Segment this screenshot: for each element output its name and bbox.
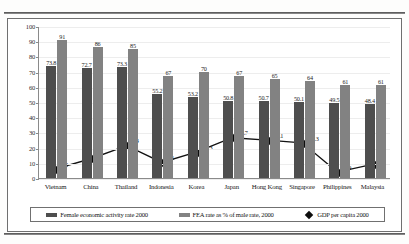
gridline	[39, 179, 390, 180]
y-tick-label: 30	[11, 130, 35, 136]
bar-value-label: 67	[236, 69, 242, 76]
bar-female-activity-rate: 72.7	[82, 68, 92, 179]
y-tick-label: 80	[11, 54, 35, 60]
x-axis-labels: VietnamChinaThailandIndonesiaKoreaJapanH…	[38, 182, 390, 195]
legend-label-0: Female economic activity rate 2000	[60, 211, 148, 218]
bar-group: 49.561	[322, 27, 357, 178]
bar-value-label: 61	[342, 78, 348, 85]
plot-area: 6.2196.43.117.326.725.123.33.99 01020304…	[38, 27, 390, 179]
bar-value-label: 70	[201, 65, 207, 72]
plot-inner: 6.2196.43.117.326.725.123.33.99 01020304…	[39, 27, 390, 178]
y-tick-label: 10	[11, 161, 35, 167]
legend-item-gdp-per-capita: GDP per capita 2000	[304, 211, 368, 218]
bar-female-activity-rate: 50.7	[259, 101, 269, 178]
bar-female-activity-rate: 49.5	[329, 103, 339, 178]
y-tick-label: 70	[11, 70, 35, 76]
bar-fea-percent-male: 85	[128, 49, 138, 178]
scanned-page: 6.2196.43.117.326.725.123.33.99 01020304…	[0, 0, 409, 244]
bar-fea-percent-male: 70	[199, 72, 209, 178]
legend-item-fea-percent-male: FEA rate as % of male rate, 2000	[179, 211, 274, 218]
legend-label-2: GDP per capita 2000	[317, 211, 368, 218]
bar-light-swatch-icon	[179, 213, 190, 217]
y-tick-label: 40	[11, 115, 35, 121]
bar-value-label: 48.4	[365, 97, 375, 104]
y-tick-label: 50	[11, 100, 35, 106]
bar-value-label: 86	[95, 40, 101, 47]
bar-female-activity-rate: 53.2	[188, 97, 198, 178]
x-axis-label-thailand: Thailand	[108, 182, 143, 195]
x-axis-label-vietnam: Vietnam	[38, 182, 73, 195]
bar-fea-percent-male: 86	[93, 47, 103, 178]
bar-value-label: 64	[307, 74, 313, 81]
legend-item-female-activity-rate: Female economic activity rate 2000	[46, 211, 148, 218]
y-tick-mark	[36, 179, 39, 180]
bar-value-label: 73.8	[46, 59, 56, 66]
legend-label-1: FEA rate as % of male rate, 2000	[193, 211, 274, 218]
bar-group: 55.267	[145, 27, 180, 178]
x-axis-label-korea: Korea	[179, 182, 214, 195]
bar-female-activity-rate: 48.4	[365, 104, 375, 178]
bar-value-label: 65	[272, 72, 278, 79]
bar-fea-percent-male: 65	[270, 79, 280, 178]
bar-female-activity-rate: 55.2	[152, 94, 162, 178]
bar-fea-percent-male: 61	[376, 85, 386, 178]
x-axis-label-singapore: Singapore	[284, 182, 319, 195]
bar-value-label: 91	[59, 33, 65, 40]
bar-group: 48.461	[358, 27, 393, 178]
x-axis-label-hong-kong: Hong Kong	[249, 182, 284, 195]
bar-female-activity-rate: 73.8	[46, 66, 56, 178]
chart-frame: 6.2196.43.117.326.725.123.33.99 01020304…	[7, 18, 402, 232]
bar-group: 73.385	[110, 27, 145, 178]
bar-fea-percent-male: 64	[305, 81, 315, 178]
x-axis-label-malaysia: Malaysia	[355, 182, 390, 195]
y-tick-label: 90	[11, 39, 35, 45]
y-tick-label: 100	[11, 24, 35, 30]
bar-group: 50.867	[216, 27, 251, 178]
bar-group: 53.270	[181, 27, 216, 178]
bar-value-label: 53.2	[188, 90, 198, 97]
bar-female-activity-rate: 50.8	[223, 101, 233, 178]
bar-group: 50.765	[251, 27, 286, 178]
bar-fea-percent-male: 61	[340, 85, 350, 178]
y-tick-label: 60	[11, 85, 35, 91]
bar-value-label: 50.1	[294, 95, 304, 102]
bar-value-label: 73.3	[117, 60, 127, 67]
bar-female-activity-rate: 50.1	[294, 102, 304, 178]
x-axis-label-philippines: Philippines	[320, 182, 355, 195]
bar-dark-swatch-icon	[46, 213, 57, 217]
bar-group: 72.786	[74, 27, 109, 178]
bar-value-label: 49.5	[329, 96, 339, 103]
diamond-marker-icon	[305, 210, 313, 218]
x-axis-label-china: China	[73, 182, 108, 195]
bar-group: 50.164	[287, 27, 322, 178]
y-tick-label: 20	[11, 146, 35, 152]
page-rule-bottom	[4, 233, 405, 235]
bar-value-label: 85	[130, 42, 136, 49]
bar-value-label: 72.7	[82, 61, 92, 68]
bar-value-label: 50.7	[259, 94, 269, 101]
chart-legend: Female economic activity rate 2000 FEA r…	[30, 207, 385, 222]
x-axis-label-indonesia: Indonesia	[144, 182, 179, 195]
bar-value-label: 55.2	[152, 87, 162, 94]
page-rule-top	[4, 12, 405, 14]
bar-group: 73.891	[39, 27, 74, 178]
bar-fea-percent-male: 67	[163, 76, 173, 178]
x-axis-label-japan: Japan	[214, 182, 249, 195]
bar-value-label: 50.8	[223, 94, 233, 101]
bar-value-label: 67	[165, 69, 171, 76]
bar-fea-percent-male: 67	[234, 76, 244, 178]
bar-female-activity-rate: 73.3	[117, 67, 127, 178]
bar-value-label: 61	[378, 78, 384, 85]
bar-fea-percent-male: 91	[57, 40, 67, 178]
y-tick-label: 0	[11, 176, 35, 182]
